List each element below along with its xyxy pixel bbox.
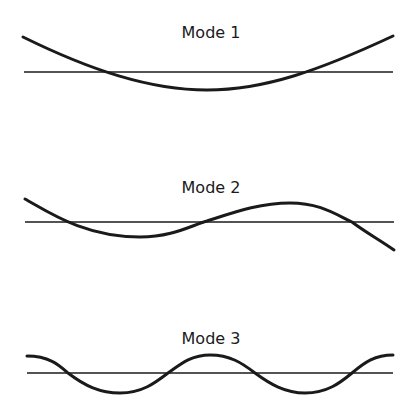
mode-1-title: Mode 1 bbox=[182, 23, 241, 42]
mode-shapes-diagram: Mode 1 Mode 2 Mode 3 bbox=[0, 0, 420, 419]
mode-2-title: Mode 2 bbox=[182, 178, 241, 197]
mode-3-title: Mode 3 bbox=[182, 329, 241, 348]
mode-3-group: Mode 3 bbox=[27, 329, 393, 393]
mode-1-group: Mode 1 bbox=[23, 23, 393, 90]
mode-2-curve bbox=[25, 199, 394, 250]
mode-1-curve bbox=[23, 36, 393, 90]
mode-2-group: Mode 2 bbox=[25, 178, 394, 250]
mode-3-curve bbox=[27, 355, 393, 393]
